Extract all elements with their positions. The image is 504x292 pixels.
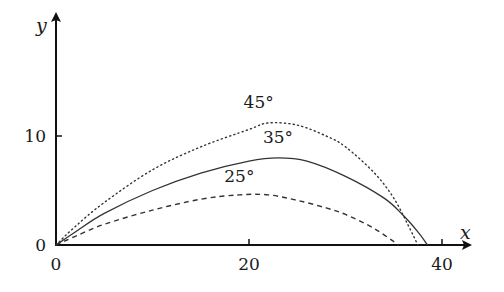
chart-labels: x y [35, 14, 471, 243]
y-tick-label: 10 [24, 126, 46, 146]
series-label: 25° [224, 166, 254, 186]
y-tick-label: 0 [35, 235, 46, 255]
y-axis-label: y [35, 14, 47, 36]
x-tick-label: 0 [51, 254, 62, 274]
series-curves: 45°35°25° [56, 92, 428, 245]
series-curve-25deg [56, 194, 399, 245]
ticks: 02040010 [24, 126, 452, 274]
series-label: 35° [263, 127, 293, 147]
x-tick-label: 40 [431, 254, 453, 274]
x-axis-label: x [460, 221, 471, 243]
series-label: 45° [244, 92, 274, 112]
x-tick-label: 20 [238, 254, 260, 274]
trajectory-chart: 02040010 45°35°25° x y [0, 0, 504, 292]
